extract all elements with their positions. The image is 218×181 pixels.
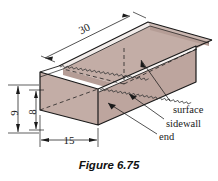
- dim-arrow-9-top: [16, 86, 20, 94]
- figure-container: 30 9 8 15: [0, 0, 218, 181]
- callout-label-sidewall: sidewall: [166, 118, 201, 129]
- dim-arrow-8-top: [34, 91, 38, 98]
- figure-caption: Figure 6.75: [79, 159, 140, 171]
- dim-value-9: 9: [8, 110, 20, 116]
- callout-label-end: end: [159, 131, 175, 142]
- dim-arrow-9-bottom: [16, 124, 20, 132]
- callout-label-surface: surface: [173, 104, 204, 115]
- dim-value-8: 8: [26, 109, 38, 115]
- dim-arrow-15-left: [41, 138, 49, 142]
- dim-arrow-8-bottom: [34, 122, 38, 129]
- trough-isometric-drawing: 30 9 8 15: [0, 0, 218, 181]
- dim-value-30: 30: [77, 20, 93, 36]
- dim-value-15: 15: [64, 134, 76, 146]
- ext-line-30-far: [133, 12, 146, 18]
- dimension-outer-height-9: 9: [8, 85, 39, 133]
- dim-arrow-15-right: [89, 138, 97, 142]
